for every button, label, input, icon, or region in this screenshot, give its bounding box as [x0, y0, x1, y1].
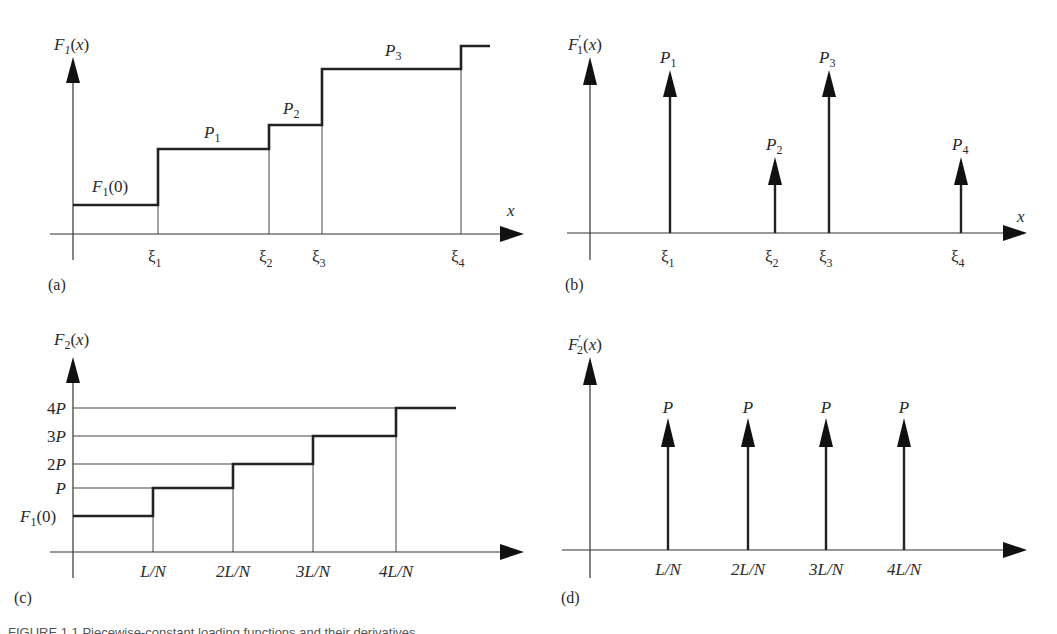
- y-tick-3P: 3P: [47, 427, 66, 446]
- panel-tag-c: (c): [14, 589, 32, 607]
- x-axis-label-b: x: [1016, 207, 1025, 226]
- impulse-arrow-icon: [954, 157, 968, 185]
- tick-xi2-b: ξ2: [765, 247, 779, 270]
- tick-xi2-a: ξ2: [259, 247, 273, 270]
- tick-xi3-b: ξ3: [819, 247, 833, 270]
- impulse-label-P3: P3: [818, 48, 835, 70]
- y-tick-F1-0: F1(0): [19, 507, 56, 529]
- x-axis-label-a: x: [506, 201, 515, 220]
- panel-d: F′2(x) P P P P L/N 2L/N 3L/N 4L/N (d): [561, 332, 1027, 607]
- y-axis-label-c: F2(x): [53, 330, 89, 352]
- impulse-arrow-icon: [897, 418, 911, 447]
- tick-xi1-a: ξ1: [148, 247, 162, 270]
- impulse-arrow-icon: [741, 418, 755, 447]
- impulse-arrow-icon: [768, 157, 782, 185]
- y-tick-4P: 4P: [47, 399, 66, 418]
- impulse-arrow-icon: [661, 418, 675, 447]
- step-label-F1-0: F1(0): [91, 177, 128, 199]
- x-tick-3LN-d: 3L/N: [808, 560, 845, 579]
- y-axis-label-a: F1(x): [53, 35, 89, 57]
- figure-canvas: F1(x) x F1(0) P1 P2 P3 ξ1 ξ2 ξ3 ξ4 (a): [0, 0, 1057, 634]
- y-tick-2P: 2P: [47, 455, 66, 474]
- tick-xi4-a: ξ4: [451, 247, 465, 270]
- y-axis-arrow-icon: [66, 357, 80, 383]
- x-axis-arrow-icon: [500, 544, 524, 560]
- x-tick-2LN-c: 2L/N: [216, 562, 252, 581]
- x-tick-LN-d: L/N: [654, 560, 682, 579]
- step-label-P2: P2: [282, 99, 299, 121]
- impulse-arrow-icon: [822, 70, 836, 97]
- x-tick-4LN-d: 4L/N: [887, 560, 923, 579]
- y-axis-label-b: F′1(x): [567, 32, 602, 57]
- impulse-label-d-1: P: [662, 398, 673, 417]
- impulse-label-d-3: P: [820, 398, 831, 417]
- panel-tag-a: (a): [48, 276, 66, 294]
- panel-b: F′1(x) x P1 P2 P3 P4 ξ1 ξ2 ξ3 ξ4 (b): [565, 32, 1027, 294]
- panel-tag-d: (d): [561, 589, 580, 607]
- step-label-P1: P1: [203, 123, 220, 145]
- impulse-label-P4: P4: [951, 135, 968, 157]
- tick-xi4-b: ξ4: [951, 247, 965, 270]
- x-tick-3LN-c: 3L/N: [295, 562, 332, 581]
- step-curve-c: [73, 408, 456, 516]
- y-axis-label-d: F′2(x): [567, 332, 602, 357]
- impulse-label-P1: P1: [659, 48, 676, 70]
- x-axis-arrow-icon: [500, 226, 524, 242]
- impulse-label-P2: P2: [765, 135, 782, 157]
- impulse-arrow-icon: [663, 70, 677, 97]
- x-axis-arrow-icon: [1003, 542, 1027, 558]
- y-tick-P: P: [55, 479, 66, 498]
- tick-xi3-a: ξ3: [312, 247, 326, 270]
- panel-tag-b: (b): [565, 276, 584, 294]
- x-axis-arrow-icon: [1003, 225, 1027, 241]
- x-tick-LN-c: L/N: [139, 562, 167, 581]
- figure-caption: FIGURE 1.1 Piecewise-constant loading fu…: [8, 626, 1048, 634]
- x-tick-2LN-d: 2L/N: [731, 560, 767, 579]
- x-tick-4LN-c: 4L/N: [379, 562, 415, 581]
- impulse-label-d-2: P: [742, 398, 753, 417]
- impulse-arrow-icon: [819, 418, 833, 447]
- panel-a: F1(x) x F1(0) P1 P2 P3 ξ1 ξ2 ξ3 ξ4 (a): [48, 35, 524, 294]
- y-axis-arrow-icon: [583, 57, 597, 85]
- step-curve-a: [73, 46, 490, 205]
- step-label-P3: P3: [384, 41, 401, 63]
- panel-c: F2(x) 4P 3P 2P P F1(0) L/N 2L/N 3L/N 4L/…: [14, 330, 524, 607]
- impulse-label-d-4: P: [898, 398, 909, 417]
- y-axis-arrow-icon: [583, 357, 597, 385]
- y-axis-arrow-icon: [66, 57, 80, 83]
- tick-xi1-b: ξ1: [661, 247, 675, 270]
